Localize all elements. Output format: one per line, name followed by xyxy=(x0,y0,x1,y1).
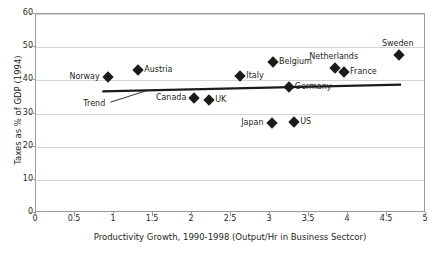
data-point-label: Germany xyxy=(295,81,332,90)
x-tick-mark xyxy=(386,212,387,216)
y-axis-title: Taxes as % of GDP (1994) xyxy=(13,40,23,180)
x-axis-title: Productivity Growth, 1990-1998 (Output/H… xyxy=(35,232,425,242)
gridline xyxy=(36,180,424,181)
x-tick-label: 2.5 xyxy=(215,215,245,223)
data-point-label: France xyxy=(350,67,377,76)
data-point-label: Norway xyxy=(69,72,99,81)
x-tick-mark xyxy=(152,212,153,216)
x-tick-label: 1.5 xyxy=(137,215,167,223)
x-tick-mark xyxy=(269,212,270,216)
data-point-label: Canada xyxy=(156,92,186,101)
x-tick-label: 2 xyxy=(176,215,206,223)
data-point-label: US xyxy=(300,116,311,125)
x-tick-label: 3.5 xyxy=(293,215,323,223)
y-tick-mark xyxy=(30,179,35,180)
x-tick-mark xyxy=(308,212,309,216)
data-point-label: Sweden xyxy=(382,39,414,48)
x-tick-mark xyxy=(74,212,75,216)
x-tick-mark xyxy=(230,212,231,216)
y-tick-mark xyxy=(30,13,35,14)
trend-label: Trend xyxy=(83,99,105,108)
x-tick-label: 4.5 xyxy=(371,215,401,223)
scatter-chart: 0102030405060 00.511.522.533.544.55 Prod… xyxy=(0,0,437,254)
y-tick-mark xyxy=(30,46,35,47)
data-point-label: Belgium xyxy=(279,57,312,66)
data-point-label: Austria xyxy=(144,65,172,74)
plot-area xyxy=(35,13,425,212)
x-tick-label: 4 xyxy=(332,215,362,223)
x-tick-label: 1 xyxy=(98,215,128,223)
y-tick-mark xyxy=(30,146,35,147)
x-tick-label: 0.5 xyxy=(59,215,89,223)
x-tick-label: 0 xyxy=(20,215,50,223)
y-tick-mark xyxy=(30,79,35,80)
x-tick-mark xyxy=(347,212,348,216)
x-tick-mark xyxy=(113,212,114,216)
x-tick-mark xyxy=(425,212,426,216)
x-tick-label: 5 xyxy=(410,215,437,223)
data-point-label: Japan xyxy=(241,118,263,127)
gridline xyxy=(36,14,424,15)
data-point-label: Netherlands xyxy=(309,52,358,61)
gridline xyxy=(36,47,424,48)
gridline xyxy=(36,114,424,115)
x-tick-label: 3 xyxy=(254,215,284,223)
gridline xyxy=(36,147,424,148)
y-tick-mark xyxy=(30,113,35,114)
x-tick-mark xyxy=(35,212,36,216)
data-point-label: Italy xyxy=(246,71,263,80)
x-tick-mark xyxy=(191,212,192,216)
data-point-label: UK xyxy=(215,95,226,104)
